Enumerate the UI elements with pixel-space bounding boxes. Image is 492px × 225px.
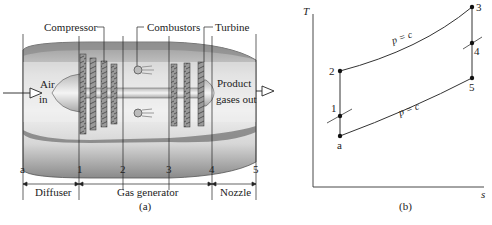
- caption-a: (a): [139, 200, 152, 213]
- turbojet-diagram: Compressor Combustors Turbine Air in Pro…: [0, 0, 492, 225]
- compressor-label: Compressor: [44, 21, 98, 33]
- turbine-label: Turbine: [215, 21, 250, 33]
- station-3: 3: [166, 163, 172, 175]
- product-gases-label-line1: Product: [217, 77, 251, 89]
- air-in-label-line2: in: [39, 93, 48, 105]
- isobar-label-low: p = c: [396, 100, 421, 118]
- state-5-label: 5: [469, 81, 475, 93]
- cycle-path: [340, 7, 472, 136]
- ts-diagram-panel-b: T s a 1 2 3 4 5 p = c p = c (: [303, 1, 485, 213]
- state-points: [338, 5, 474, 138]
- state-a-label: a: [337, 139, 342, 151]
- state-4-label: 4: [474, 45, 480, 57]
- station-1: 1: [77, 163, 83, 175]
- station-5: 5: [253, 163, 259, 175]
- turbine-blades: [171, 62, 204, 127]
- station-4: 4: [209, 163, 215, 175]
- x-axis-label: s: [481, 188, 485, 200]
- caption-b: (b): [399, 200, 412, 213]
- diffuser-label: Diffuser: [35, 186, 72, 198]
- gas-generator-label: Gas generator: [117, 186, 179, 198]
- isobar-label-high: p = c: [389, 28, 414, 46]
- station-2: 2: [120, 163, 126, 175]
- combustors-label: Combustors: [147, 21, 200, 33]
- nozzle-label: Nozzle: [220, 186, 251, 198]
- product-gases-label-line2: gases out: [216, 93, 257, 105]
- state-2-label: 2: [329, 65, 335, 77]
- y-axis-label: T: [303, 5, 310, 17]
- engine-panel-a: Compressor Combustors Turbine Air in Pro…: [3, 21, 274, 213]
- station-a: a: [20, 163, 25, 175]
- state-3-label: 3: [476, 1, 482, 13]
- air-in-label-line1: Air: [40, 78, 55, 90]
- outlet-arrow: [256, 86, 274, 96]
- state-1-label: 1: [331, 102, 337, 114]
